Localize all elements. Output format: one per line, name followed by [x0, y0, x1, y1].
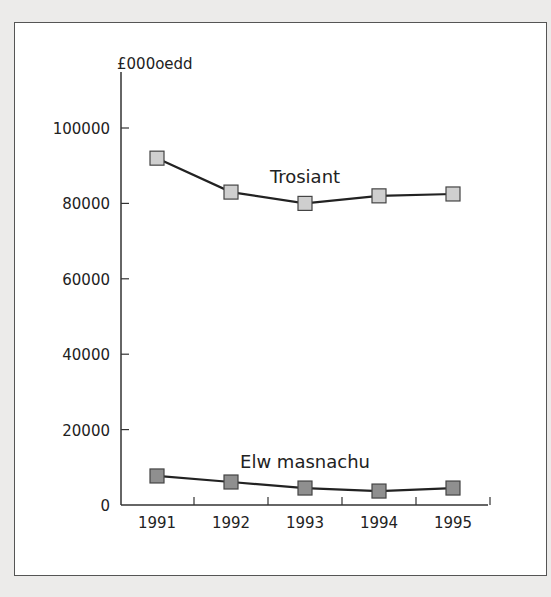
line-chart: £000oedd 020000400006000080000100000 199…	[0, 0, 551, 597]
y-tick-label: 20000	[62, 422, 110, 440]
data-point-marker	[298, 196, 312, 210]
data-point-marker	[372, 189, 386, 203]
data-point-marker	[446, 187, 460, 201]
series-label: Elw masnachu	[240, 451, 370, 472]
x-tick-label: 1991	[138, 514, 176, 532]
data-point-marker	[150, 151, 164, 165]
y-tick-label: 0	[100, 497, 110, 515]
y-tick-label: 80000	[62, 195, 110, 213]
data-point-marker	[224, 185, 238, 199]
data-point-marker	[150, 469, 164, 483]
series-label: Trosiant	[269, 166, 340, 187]
x-tick-label: 1992	[212, 514, 250, 532]
data-point-marker	[298, 481, 312, 495]
data-point-marker	[224, 475, 238, 489]
y-tick-label: 60000	[62, 271, 110, 289]
y-axis-label: £000oedd	[117, 55, 193, 73]
y-tick-label: 100000	[53, 120, 110, 138]
x-tick-label: 1993	[286, 514, 324, 532]
y-tick-label: 40000	[62, 346, 110, 364]
data-point-marker	[446, 481, 460, 495]
x-tick-label: 1995	[434, 514, 472, 532]
data-point-marker	[372, 484, 386, 498]
x-tick-label: 1994	[360, 514, 398, 532]
